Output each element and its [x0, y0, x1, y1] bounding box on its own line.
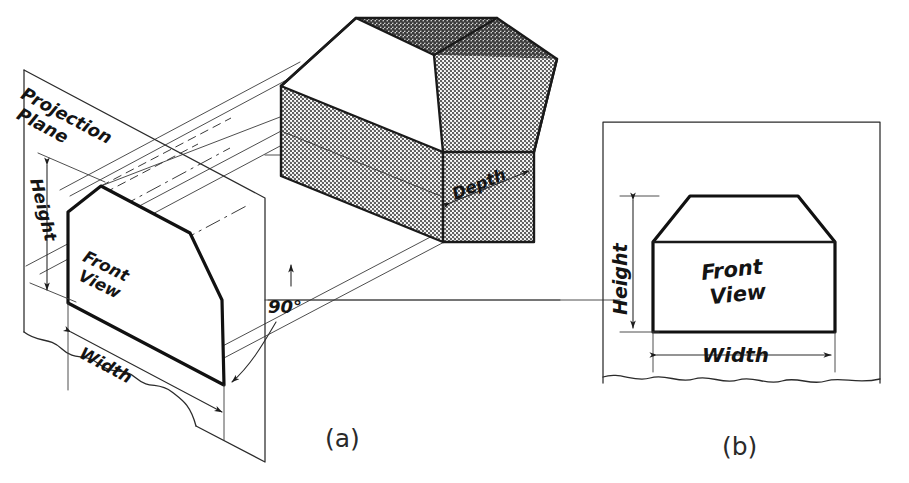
angle-callout: 90° [232, 265, 302, 382]
width-dimension-b: Width [653, 332, 835, 372]
pictorial-object [281, 18, 557, 243]
width-label-a: Width [76, 343, 136, 387]
sheet-break-line-b [603, 375, 880, 382]
panel-b: Front View Height Width (b) [603, 122, 880, 461]
panel-a: Projection Plane [8, 18, 620, 462]
width-label-b: Width [702, 343, 769, 367]
figure-root: Projection Plane [0, 0, 909, 483]
height-label-a: Height [26, 176, 61, 244]
technical-drawing-svg: Projection Plane [0, 0, 909, 483]
front-view-label-b: Front View [700, 254, 768, 309]
caption-b: (b) [722, 432, 757, 461]
caption-a: (a) [325, 424, 360, 453]
angle-label: 90° [268, 296, 302, 317]
height-label-b: Height [609, 243, 631, 315]
